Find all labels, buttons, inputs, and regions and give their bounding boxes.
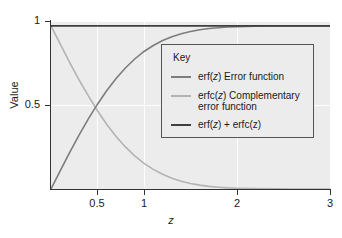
legend-label: erfc(z) Complementary error function bbox=[198, 90, 318, 112]
y-tick-label: 1 bbox=[10, 15, 40, 26]
legend-swatch-sum bbox=[171, 124, 191, 126]
legend-swatch-erfc bbox=[171, 95, 191, 97]
x-axis-label: z bbox=[0, 214, 342, 226]
y-tick-mark bbox=[45, 21, 50, 22]
chart-figure: 0.5 1 2 3 1 0.5 z Value Key erf(z) Error… bbox=[0, 0, 342, 238]
x-axis-line bbox=[50, 189, 331, 190]
x-tick-label: 2 bbox=[222, 197, 252, 210]
legend-label: erf(z) + erfc(z) bbox=[198, 119, 318, 130]
x-tick-label: 3 bbox=[315, 197, 342, 210]
y-tick-mark bbox=[45, 105, 50, 106]
legend-swatch-erf bbox=[171, 76, 191, 78]
x-tick-mark bbox=[330, 190, 331, 195]
legend-box: Key erf(z) Error function erfc(z) Comple… bbox=[161, 44, 314, 138]
x-tick-label: 1 bbox=[129, 197, 159, 210]
x-tick-mark bbox=[144, 190, 145, 195]
x-tick-mark bbox=[237, 190, 238, 195]
x-tick-label: 0.5 bbox=[82, 197, 112, 210]
legend-label: erf(z) Error function bbox=[198, 71, 318, 82]
legend-title: Key bbox=[173, 52, 190, 63]
x-tick-mark bbox=[97, 190, 98, 195]
y-axis-label: Value bbox=[8, 65, 20, 125]
y-axis-line bbox=[50, 20, 51, 190]
